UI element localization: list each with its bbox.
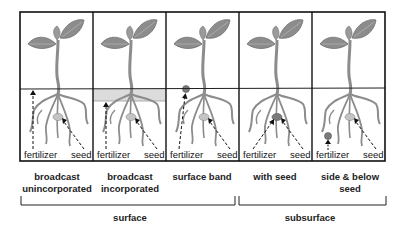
seed-arrow	[210, 122, 230, 149]
fertilizer-label: fertilizer	[97, 149, 130, 160]
panel-broadcast-incorporated: fertilizer seed	[93, 20, 166, 160]
fertilizer-placement-diagram: fertilizer seed fertilizer seed fertiliz…	[0, 0, 406, 232]
group-label-subsurface: subsurface	[260, 212, 360, 223]
label-line: with seed	[233, 171, 317, 183]
seed-icon	[199, 114, 209, 121]
panel-with-seed: fertilizer seed	[243, 20, 311, 160]
method-label-with-seed: with seed	[233, 171, 317, 183]
panel-broadcast-unincorporated: fertilizer seed	[24, 20, 92, 160]
fertilizer-label: fertilizer	[170, 149, 203, 160]
label-line: broadcast	[15, 171, 99, 183]
seed-icon	[126, 114, 136, 121]
soil-surface-line	[20, 88, 385, 89]
panel-side-below-seed: fertilizer seed	[316, 20, 384, 160]
group-label-surface: surface	[80, 212, 180, 223]
seed-label: seed	[217, 149, 238, 160]
panel-surface-band: fertilizer seed	[170, 20, 238, 160]
seed-label: seed	[144, 149, 165, 160]
surface-bracket	[21, 196, 235, 205]
label-line: side & below	[308, 171, 392, 183]
seed-icon	[345, 114, 355, 121]
label-line: incorporated	[88, 183, 172, 195]
method-label-side-below-seed: side & below seed	[308, 171, 392, 195]
fertilizer-label: fertilizer	[316, 149, 349, 160]
seed-arrow	[356, 122, 376, 149]
seed-icon	[53, 114, 63, 121]
seed-label: seed	[71, 149, 92, 160]
seed-arrow	[64, 122, 84, 149]
subsurface-bracket	[239, 196, 386, 205]
fertilizer-arrow	[253, 122, 272, 149]
seed-arrow	[283, 122, 303, 149]
fertilizer-dot-icon	[325, 133, 332, 140]
seed-arrow	[137, 122, 157, 149]
seed-label: seed	[363, 149, 384, 160]
fertilizer-label: fertilizer	[24, 149, 57, 160]
method-label-broadcast-unincorporated: broadcast unincorporated	[15, 171, 99, 195]
fertilizer-label: fertilizer	[243, 149, 276, 160]
label-line: surface band	[160, 171, 244, 183]
label-line: unincorporated	[15, 183, 99, 195]
seed-label: seed	[290, 149, 311, 160]
method-label-surface-band: surface band	[160, 171, 244, 183]
label-line: seed	[308, 183, 392, 195]
